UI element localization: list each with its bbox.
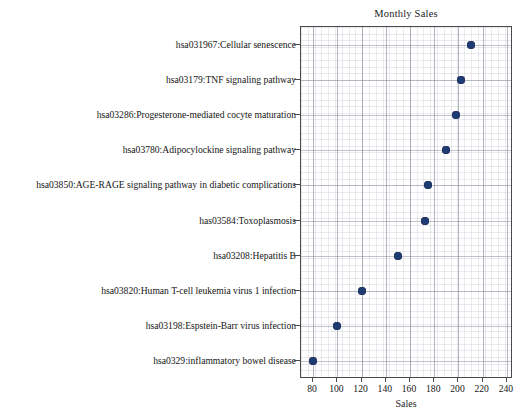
y-tick-mark: [294, 255, 300, 256]
x-gridline: [507, 27, 508, 377]
data-point[interactable]: [424, 181, 432, 189]
y-gridline: [301, 291, 511, 292]
x-gridline: [386, 27, 387, 377]
x-tick-mark: [457, 378, 458, 382]
y-axis-label: hsa03780:Adipocylockine signaling pathwa…: [0, 144, 296, 155]
x-tick-mark: [506, 378, 507, 382]
y-axis-label: hsa03286:Progesterone-mediated cocyte ma…: [0, 109, 296, 120]
y-axis-label: hsa03820:Human T-cell leukemia virus 1 i…: [0, 285, 296, 296]
x-tick-label: 100: [329, 383, 343, 394]
x-tick-mark: [385, 378, 386, 382]
data-point[interactable]: [442, 146, 450, 154]
y-axis-label: hsa03198:Espstein-Barr virus infection: [0, 320, 296, 331]
y-tick-mark: [294, 360, 300, 361]
x-tick-mark: [482, 378, 483, 382]
y-axis-label: has03584:Toxoplasmosis: [0, 214, 296, 225]
x-gridline: [362, 27, 363, 377]
y-gridline: [301, 80, 511, 81]
x-gridline: [313, 27, 314, 377]
chart-title: Monthly Sales: [300, 8, 512, 19]
x-tick-mark: [336, 378, 337, 382]
data-point[interactable]: [452, 111, 460, 119]
x-tick-label: 240: [499, 383, 513, 394]
x-axis-title: Sales: [300, 398, 512, 409]
data-point[interactable]: [457, 76, 465, 84]
x-gridline: [483, 27, 484, 377]
y-axis-label: hsa03179:TNF signaling pathway: [0, 73, 296, 84]
x-tick-mark: [312, 378, 313, 382]
data-point[interactable]: [467, 41, 475, 49]
x-tick-label: 120: [353, 383, 367, 394]
y-gridline: [301, 256, 511, 257]
data-point[interactable]: [394, 252, 402, 260]
x-tick-label: 220: [475, 383, 489, 394]
x-tick-mark: [361, 378, 362, 382]
x-tick-label: 180: [426, 383, 440, 394]
y-axis-label: hsa031967:Cellular senescence: [0, 38, 296, 49]
y-gridline: [301, 115, 511, 116]
y-gridline: [301, 150, 511, 151]
x-tick-mark: [433, 378, 434, 382]
data-point[interactable]: [309, 357, 317, 365]
x-tick-label: 80: [307, 383, 317, 394]
x-gridline: [434, 27, 435, 377]
y-tick-mark: [294, 325, 300, 326]
data-point[interactable]: [358, 287, 366, 295]
y-gridline: [301, 45, 511, 46]
y-gridline: [301, 221, 511, 222]
y-tick-mark: [294, 184, 300, 185]
x-tick-label: 140: [378, 383, 392, 394]
x-tick-label: 200: [450, 383, 464, 394]
x-tick-mark: [409, 378, 410, 382]
y-tick-mark: [294, 220, 300, 221]
x-tick-label: 160: [402, 383, 416, 394]
data-point[interactable]: [421, 217, 429, 225]
y-tick-mark: [294, 149, 300, 150]
y-tick-mark: [294, 290, 300, 291]
y-tick-mark: [294, 79, 300, 80]
y-axis-label: hsa0329:inflammatory bowel disease: [0, 355, 296, 366]
x-gridline: [410, 27, 411, 377]
y-gridline: [301, 185, 511, 186]
y-gridline: [301, 361, 511, 362]
scatter-chart-figure: Monthly Sales hsa0329:inflammatory bowel…: [0, 0, 527, 419]
plot-area: [300, 26, 512, 378]
y-tick-mark: [294, 44, 300, 45]
data-point[interactable]: [333, 322, 341, 330]
y-axis-label: hsa03850:AGE-RAGE signaling pathway in d…: [0, 179, 296, 190]
y-tick-mark: [294, 114, 300, 115]
y-axis-label: hsa03208:Hepatitis B: [0, 249, 296, 260]
